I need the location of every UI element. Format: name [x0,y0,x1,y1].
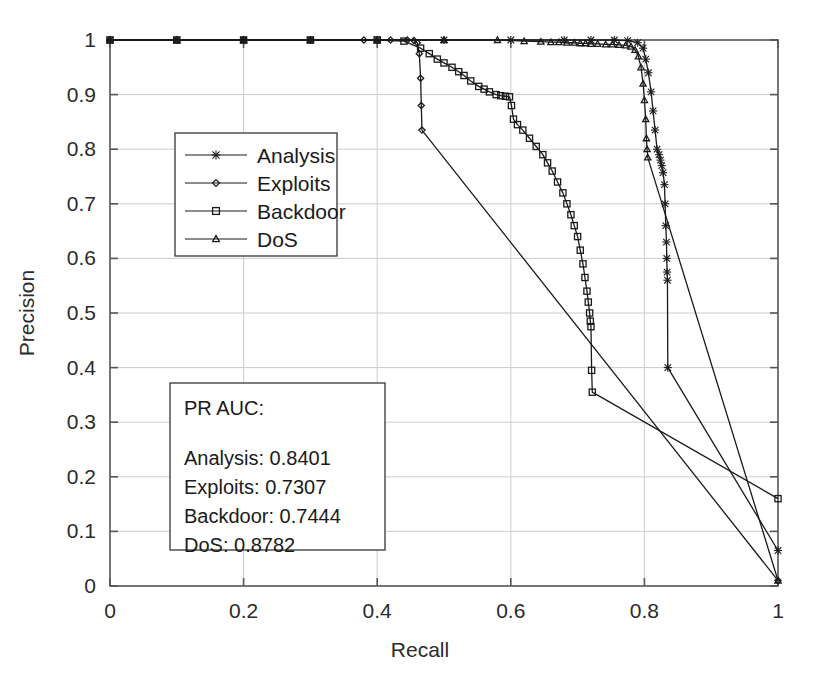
y-tick-label: 0.4 [67,356,97,379]
auc-box-title: PR AUC: [184,397,264,419]
y-tick-label: 0.9 [67,83,96,106]
y-tick-label: 0.2 [67,465,96,488]
star-marker [663,268,671,276]
star-marker [639,44,647,52]
star-marker [663,276,671,284]
chart-canvas: 00.10.20.30.40.50.60.70.80.9100.20.40.60… [0,0,819,683]
star-marker [649,107,657,115]
y-tick-label: 0 [84,574,96,597]
star-marker [659,169,667,177]
legend-label: DoS [257,228,298,251]
y-tick-label: 0.1 [67,519,96,542]
star-marker [656,156,664,164]
x-tick-label: 0.6 [496,599,525,622]
star-marker [644,69,652,77]
y-axis-title: Precision [15,270,38,356]
star-marker [655,151,663,159]
pr-auc-annotation-box: PR AUC:Analysis: 0.8401Exploits: 0.7307B… [170,383,385,556]
star-marker [774,546,782,554]
star-marker [663,254,671,262]
x-tick-label: 1 [772,599,784,622]
star-marker [647,88,655,96]
auc-entry-analysis: Analysis: 0.8401 [184,447,331,469]
star-marker [658,162,666,170]
auc-entry-dos: DoS: 0.8782 [184,534,295,556]
x-axis-title: Recall [391,638,449,661]
auc-entry-backdoor: Backdoor: 0.7444 [184,505,341,527]
legend-label: Analysis [257,144,335,167]
y-tick-label: 0.5 [67,301,96,324]
y-tick-label: 0.6 [67,246,96,269]
y-tick-label: 0.7 [67,192,96,215]
precision-recall-figure: 00.10.20.30.40.50.60.70.80.9100.20.40.60… [0,0,819,683]
auc-entry-exploits: Exploits: 0.7307 [184,476,326,498]
x-tick-label: 0.4 [363,599,393,622]
legend-label: Backdoor [257,200,346,223]
star-marker [651,126,659,134]
legend-label: Exploits [257,172,331,195]
x-tick-label: 0.8 [630,599,659,622]
star-marker [664,364,672,372]
y-tick-label: 0.3 [67,410,96,433]
star-marker [660,181,668,189]
x-tick-label: 0 [104,599,116,622]
star-marker [642,55,650,63]
y-tick-label: 0.8 [67,137,96,160]
star-marker [662,238,670,246]
star-marker [212,151,221,160]
x-tick-label: 0.2 [229,599,258,622]
y-tick-label: 1 [84,28,96,51]
legend: AnalysisExploitsBackdoorDoS [175,133,346,256]
